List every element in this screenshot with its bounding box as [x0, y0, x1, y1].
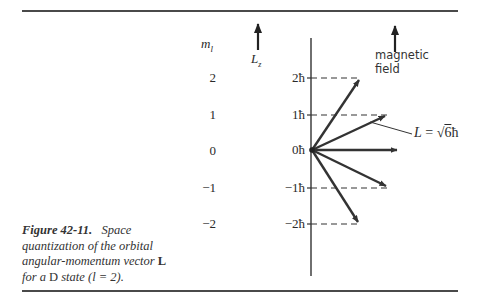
tick-label-m1: −1ħ	[265, 180, 305, 196]
caption-vector: L	[158, 254, 166, 268]
magnetic-field-label: magnetic field	[375, 48, 429, 76]
field-label-line2: field	[375, 62, 429, 76]
l-label-leader	[370, 122, 412, 134]
tick-label-m2: −2ħ	[265, 216, 305, 232]
ml-value-2: 2	[186, 70, 216, 86]
ml-column-header: ml	[201, 36, 213, 54]
ml-value-1: 1	[186, 107, 216, 123]
origin-point	[309, 147, 315, 153]
ml-value-m1: −1	[186, 180, 216, 196]
tick-label-1: 1ħ	[265, 107, 305, 123]
caption-state: D	[49, 270, 58, 284]
caption-text-3: angular-momentum vector	[22, 254, 155, 268]
caption-text-1: Space	[102, 223, 132, 237]
figure-caption: Figure 42-11. Space quantization of the …	[22, 223, 222, 285]
figure-number: Figure 42-11.	[22, 223, 92, 237]
caption-text-4: for a	[22, 270, 46, 284]
caption-text-2: quantization of the orbital	[22, 239, 222, 255]
field-label-line1: magnetic	[375, 48, 429, 62]
bottom-rule	[22, 290, 458, 292]
tick-label-2: 2ħ	[265, 70, 305, 86]
lz-label: Lz	[251, 51, 261, 69]
l-vectors	[312, 80, 397, 222]
ml-value-0: 0	[186, 143, 216, 159]
caption-text-5: state (l = 2).	[61, 270, 124, 284]
l-magnitude-label: L = √6ħ	[414, 125, 458, 141]
tick-label-0: 0ħ	[265, 142, 305, 158]
